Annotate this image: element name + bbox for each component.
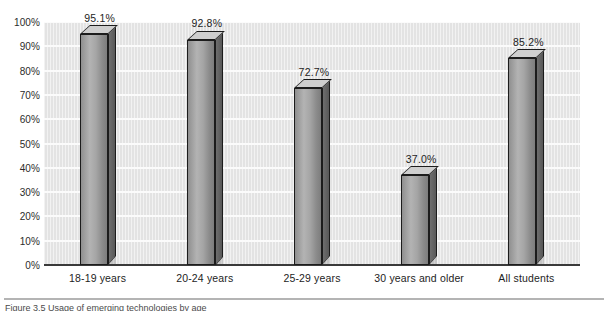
x-axis-category-label: 18-19 years [69, 272, 126, 284]
y-axis-tick-label: 60% [0, 114, 40, 125]
bar-side-face [536, 49, 544, 265]
y-axis-labels: 100%90%80%70%60%50%40%30%20%10%0% [0, 0, 40, 311]
figure-caption: Figure 3.5 Usage of emerging technologie… [5, 303, 207, 311]
bar-front-face [401, 175, 429, 265]
bar[interactable] [401, 175, 429, 265]
y-axis-tick-label: 10% [0, 235, 40, 246]
caption-divider [4, 298, 604, 300]
y-axis-tick-label: 80% [0, 65, 40, 76]
bar[interactable] [187, 40, 215, 266]
bar-value-label: 37.0% [406, 153, 437, 165]
y-axis-tick-label: 40% [0, 162, 40, 173]
bar-side-face [108, 25, 116, 265]
y-axis-tick-label: 70% [0, 89, 40, 100]
gridline [44, 45, 580, 47]
bar-value-label: 85.2% [513, 36, 544, 48]
bar-value-label: 72.7% [299, 66, 330, 78]
bar[interactable] [80, 34, 108, 265]
x-axis-category-label: 20-24 years [176, 272, 233, 284]
y-axis-tick-label: 100% [0, 17, 40, 28]
y-axis-tick-label: 30% [0, 187, 40, 198]
y-axis-tick-label: 50% [0, 138, 40, 149]
bar-side-face [322, 79, 330, 265]
gridline [44, 22, 580, 23]
bar-front-face [187, 40, 215, 266]
x-axis-category-label: 30 years and older [374, 272, 464, 284]
x-axis-category-label: 25-29 years [283, 272, 340, 284]
bar-front-face [294, 88, 322, 265]
bar-front-face [80, 34, 108, 265]
x-axis-category-label: All students [498, 272, 554, 284]
plot-area [44, 22, 580, 265]
y-axis-tick-label: 90% [0, 41, 40, 52]
y-axis-tick-label: 0% [0, 260, 40, 271]
y-axis-tick-label: 20% [0, 211, 40, 222]
bar-value-label: 95.1% [84, 12, 115, 24]
bar-value-label: 92.8% [191, 17, 222, 29]
bar-front-face [508, 58, 536, 265]
bar-side-face [215, 31, 223, 265]
bar-side-face [429, 166, 437, 265]
bar[interactable] [294, 88, 322, 265]
bar[interactable] [508, 58, 536, 265]
figure-container: 100%90%80%70%60%50%40%30%20%10%0% 95.1%9… [0, 0, 608, 311]
